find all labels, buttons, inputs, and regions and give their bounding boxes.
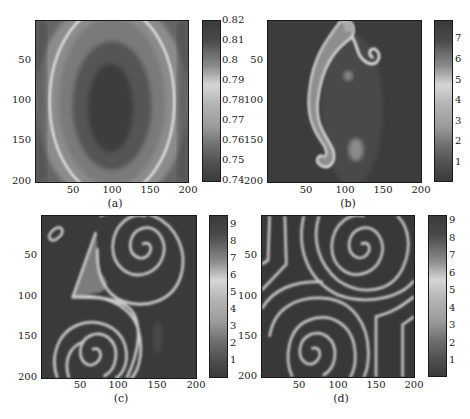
colorbar-tick: 6 (230, 270, 236, 280)
y-tick: 100 (233, 291, 257, 301)
colorbar-tick: 2 (455, 136, 461, 146)
colorbar-d (428, 215, 447, 377)
heatmap-a (35, 20, 189, 183)
y-tick: 200 (7, 176, 31, 186)
heatmap-b (267, 20, 422, 183)
heatmap-d (261, 215, 415, 378)
y-tick: 100 (13, 291, 37, 301)
x-tick: 200 (409, 185, 433, 195)
panel-caption: (c) (106, 392, 136, 405)
y-tick: 200 (233, 371, 257, 381)
x-tick: 200 (184, 380, 208, 390)
colorbar-tick: 9 (230, 219, 236, 229)
y-tick: 150 (233, 331, 257, 341)
x-tick: 150 (364, 380, 388, 390)
panel-caption: (b) (333, 197, 363, 210)
y-tick: 50 (233, 250, 257, 260)
y-tick: 200 (239, 176, 263, 186)
y-tick: 100 (7, 95, 31, 105)
x-tick: 100 (100, 185, 124, 195)
colorbar-tick: 2 (449, 338, 455, 348)
y-tick: 200 (13, 372, 37, 382)
colorbar-tick: 9 (449, 215, 455, 225)
x-tick: 50 (61, 185, 85, 195)
colorbar-tick: 4 (230, 304, 236, 314)
colorbar-tick: 0.81 (222, 35, 244, 45)
x-tick: 100 (106, 380, 130, 390)
x-tick: 200 (176, 185, 200, 195)
x-tick: 150 (138, 185, 162, 195)
colorbar-tick: 4 (455, 95, 461, 105)
colorbar-tick: 1 (449, 355, 455, 365)
colorbar-tick: 3 (449, 320, 455, 330)
colorbar-tick: 8 (230, 236, 236, 246)
y-tick: 50 (7, 55, 31, 65)
x-tick: 50 (68, 380, 92, 390)
colorbar-a (202, 20, 221, 182)
colorbar-tick: 0.8 (222, 55, 238, 65)
colorbar-tick: 3 (455, 116, 461, 126)
colorbar-b (434, 20, 453, 182)
colorbar-tick: 0.82 (222, 15, 244, 25)
panel-caption: (d) (326, 392, 356, 405)
colorbar-tick: 3 (230, 321, 236, 331)
colorbar-tick: 5 (449, 285, 455, 295)
panel-caption: (a) (100, 197, 130, 210)
colorbar-tick: 6 (455, 54, 461, 64)
x-tick: 50 (294, 185, 318, 195)
colorbar-tick: 1 (230, 355, 236, 365)
colorbar-tick: 0.75 (222, 155, 244, 165)
colorbar-tick: 4 (449, 303, 455, 313)
colorbar-tick: 0.79 (222, 75, 244, 85)
colorbar-tick: 6 (449, 268, 455, 278)
colorbar-tick: 7 (449, 250, 455, 260)
x-tick: 50 (287, 380, 311, 390)
colorbar-tick: 8 (449, 233, 455, 243)
y-tick: 50 (239, 55, 263, 65)
colorbar-tick: 7 (455, 33, 461, 43)
heatmap-c (41, 215, 197, 379)
colorbar-tick: 1 (455, 157, 461, 167)
y-tick: 50 (13, 250, 37, 260)
x-tick: 150 (371, 185, 395, 195)
colorbar-tick: 5 (455, 75, 461, 85)
y-tick: 150 (239, 135, 263, 145)
colorbar-c (209, 215, 228, 378)
y-tick: 150 (7, 135, 31, 145)
x-tick: 200 (402, 380, 426, 390)
x-tick: 100 (333, 185, 357, 195)
x-tick: 150 (145, 380, 169, 390)
colorbar-tick: 0.77 (222, 115, 244, 125)
y-tick: 150 (13, 331, 37, 341)
x-tick: 100 (326, 380, 350, 390)
y-tick: 100 (239, 95, 263, 105)
